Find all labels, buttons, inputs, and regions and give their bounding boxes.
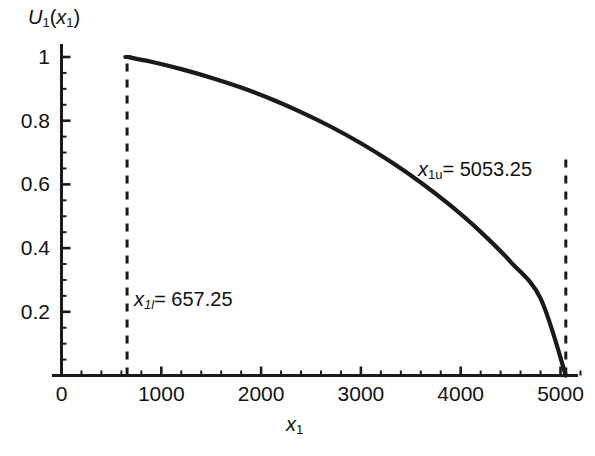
- data-curve: [127, 57, 566, 376]
- plot-area: [0, 0, 595, 456]
- chart-figure: U1(x1) x1 x1l= 657.25 x1u= 5053.25 0.20.…: [0, 0, 595, 456]
